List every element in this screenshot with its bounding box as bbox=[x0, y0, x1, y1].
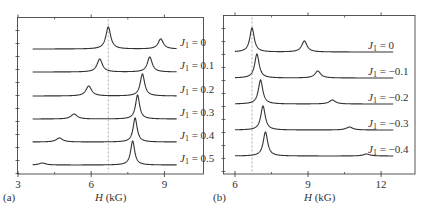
panel-a: J1 = 0J1 = 0.1J1 = 0.2J1 = 0.3J1 = 0.4J1… bbox=[3, 15, 215, 205]
panel-b-ticks bbox=[222, 13, 382, 178]
x-tick-label: 6 bbox=[232, 178, 238, 190]
series-legend-label: J1 = −0.4 bbox=[368, 143, 409, 157]
panel-a-tick-labels: 369 bbox=[15, 178, 167, 190]
series-legend-label: J1 = 0.5 bbox=[180, 152, 215, 166]
panel-a-x-axis-label: H (kG) bbox=[94, 191, 127, 204]
spectrum-curve bbox=[33, 74, 177, 96]
series-legend-label: J1 = −0.1 bbox=[368, 65, 409, 79]
spectrum-curve bbox=[33, 141, 177, 165]
x-tick-label: 3 bbox=[15, 178, 21, 190]
panel-a-label: (a) bbox=[3, 191, 16, 204]
panel-b-label: (b) bbox=[213, 191, 226, 204]
x-tick-label: 12 bbox=[376, 178, 387, 190]
x-tick-label: 6 bbox=[88, 178, 94, 190]
panel-b-x-axis-label: H (kG) bbox=[303, 191, 336, 204]
panel-b: J1 = 0J1 = −0.1J1 = −0.2J1 = −0.3J1 = −0… bbox=[213, 13, 415, 205]
spectrum-curve bbox=[33, 118, 177, 142]
series-legend-label: J1 = −0.3 bbox=[368, 117, 409, 131]
x-tick-label: 9 bbox=[305, 178, 311, 190]
spectrum-curve bbox=[33, 57, 177, 72]
panel-b-tick-labels: 6912 bbox=[232, 178, 386, 190]
panel-a-curves bbox=[33, 27, 177, 165]
series-legend-label: J1 = 0 bbox=[180, 36, 207, 50]
figure: J1 = 0J1 = 0.1J1 = 0.2J1 = 0.3J1 = 0.4J1… bbox=[0, 0, 426, 214]
spectrum-curve bbox=[33, 27, 177, 49]
spectrum-curve bbox=[33, 95, 177, 119]
x-tick-label: 9 bbox=[162, 178, 168, 190]
panel-b-legends: J1 = 0J1 = −0.1J1 = −0.2J1 = −0.3J1 = −0… bbox=[368, 39, 409, 157]
series-legend-label: J1 = 0.1 bbox=[180, 59, 214, 73]
series-legend-label: J1 = 0.3 bbox=[180, 106, 215, 120]
panel-a-legends: J1 = 0J1 = 0.1J1 = 0.2J1 = 0.3J1 = 0.4J1… bbox=[180, 36, 215, 166]
series-legend-label: J1 = 0.4 bbox=[180, 129, 215, 143]
series-legend-label: J1 = 0 bbox=[368, 39, 395, 53]
series-legend-label: J1 = −0.2 bbox=[368, 91, 409, 105]
series-legend-label: J1 = 0.2 bbox=[180, 83, 214, 97]
